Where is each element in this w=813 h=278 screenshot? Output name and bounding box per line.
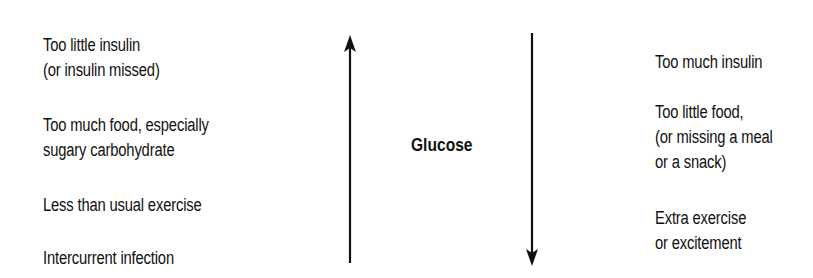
cause-line: (or missing a meal [655,125,773,150]
up-arrow-icon [344,35,356,263]
cause-line: or a snack) [655,150,773,175]
cause-line: Too much insulin [655,50,762,75]
decrease-cause-1: Too much insulin [655,50,762,75]
glucose-label: Glucose [411,134,472,156]
decrease-cause-3: Extra exercise or excitement [655,206,746,256]
cause-line: Too little food, [655,100,773,125]
down-arrow-icon [526,33,538,266]
decrease-cause-2: Too little food, (or missing a meal or a… [655,100,773,175]
cause-line: Extra exercise [655,206,746,231]
cause-line: or excitement [655,231,746,256]
